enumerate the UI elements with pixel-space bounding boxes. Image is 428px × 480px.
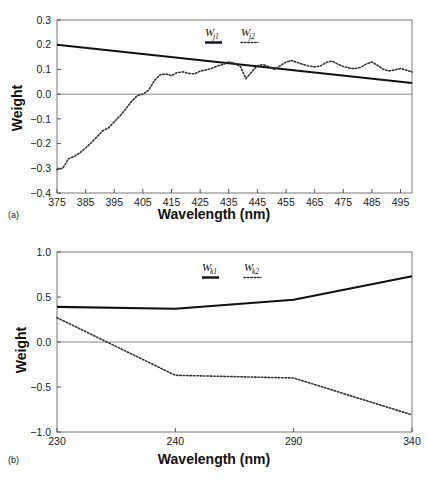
x-tick-label: 445	[249, 196, 267, 208]
x-tick-label: 405	[134, 196, 152, 208]
legend-subscript: k1	[210, 267, 217, 276]
legend-subscript: k2	[252, 267, 259, 276]
x-tick-label: 375	[48, 196, 66, 208]
y-tick-label: 0.0	[36, 336, 51, 348]
x-tick-label: 230	[48, 435, 66, 447]
x-tick-label: 240	[167, 435, 185, 447]
x-tick-label: 290	[285, 435, 303, 447]
x-tick-label: 425	[191, 196, 209, 208]
legend-entry-W_j2: Wj2	[241, 26, 258, 43]
x-tick-label: 495	[392, 196, 410, 208]
legend-subscript: j1	[212, 32, 219, 41]
x-tick-label: 435	[220, 196, 238, 208]
legend-entry-W_k2: Wk2	[244, 261, 261, 278]
y-tick-label: −0.1	[30, 113, 51, 125]
x-tick-label: 340	[403, 435, 421, 447]
y-tick-label: 1.0	[36, 246, 51, 258]
panel-a-plot: 0.30.20.10.0−0.1−0.2−0.3−0.4375385395405…	[0, 0, 428, 232]
y-tick-label: 0.3	[36, 14, 51, 26]
series-W_k2	[57, 318, 412, 415]
legend-subscript: j2	[248, 32, 255, 41]
y-tick-label: 0.2	[36, 38, 51, 50]
legend-entry-W_k1: Wk1	[202, 261, 219, 278]
x-tick-label: 395	[105, 196, 123, 208]
legend-entry-W_j1: Wj1	[205, 26, 222, 43]
series-W_k1	[57, 276, 412, 308]
y-tick-label: −0.5	[30, 381, 51, 393]
x-tick-label: 455	[277, 196, 295, 208]
x-tick-label: 385	[77, 196, 95, 208]
chart-panel-b: (b) Weight Wavelength (nm) 1.00.50.0−0.5…	[0, 236, 428, 480]
x-tick-label: 465	[306, 196, 324, 208]
panel-b-plot: 1.00.50.0−0.5−1.0230240290340Wk1Wk2	[0, 236, 428, 480]
plot-frame	[57, 20, 412, 193]
figure-weights: (a) Weight Wavelength (nm) 0.30.20.10.0−…	[0, 0, 428, 480]
y-tick-label: 0.5	[36, 291, 51, 303]
x-tick-label: 475	[335, 196, 353, 208]
y-tick-label: 0.0	[36, 88, 51, 100]
y-tick-label: −0.3	[30, 162, 51, 174]
chart-panel-a: (a) Weight Wavelength (nm) 0.30.20.10.0−…	[0, 0, 428, 232]
y-tick-label: 0.1	[36, 63, 51, 75]
x-tick-label: 415	[163, 196, 181, 208]
y-tick-label: −0.2	[30, 137, 51, 149]
x-tick-label: 485	[363, 196, 381, 208]
